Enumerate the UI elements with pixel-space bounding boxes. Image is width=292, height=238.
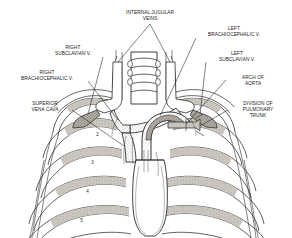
rib-number-5: 5: [80, 217, 83, 223]
label-left-brachiocephalic-vein: LEFT BRACHIOCEPHALIC V.: [199, 25, 269, 37]
label-right-subclavian-vein: RIGHT SUBCLAVIAN V.: [44, 44, 101, 56]
label-internal-jugular-veins: INTERNAL JUGULAR VEINS: [115, 9, 185, 21]
label-left-subclavian-vein: LEFT SUBCLAVIAN V.: [208, 50, 265, 62]
label-arch-of-aorta: ARCH OF AORTA: [230, 74, 276, 86]
label-division-of-pulmonary-trunk: DIVISION OF PULMONARY TRUNK: [232, 100, 284, 119]
rib-number-4: 4: [86, 188, 89, 194]
anatomy-figure: INTERNAL JUGULAR VEINS LEFT BRACHIOCEPHA…: [0, 0, 292, 238]
rib-number-2: 2: [96, 131, 99, 137]
label-right-brachiocephalic-vein: RIGHT BRACHIOCEPHALIC V.: [9, 69, 84, 81]
trachea: [128, 52, 161, 104]
label-superior-vena-cava: SUPERIOR VENA CAVA: [20, 100, 70, 112]
rib-number-3: 3: [91, 159, 94, 165]
